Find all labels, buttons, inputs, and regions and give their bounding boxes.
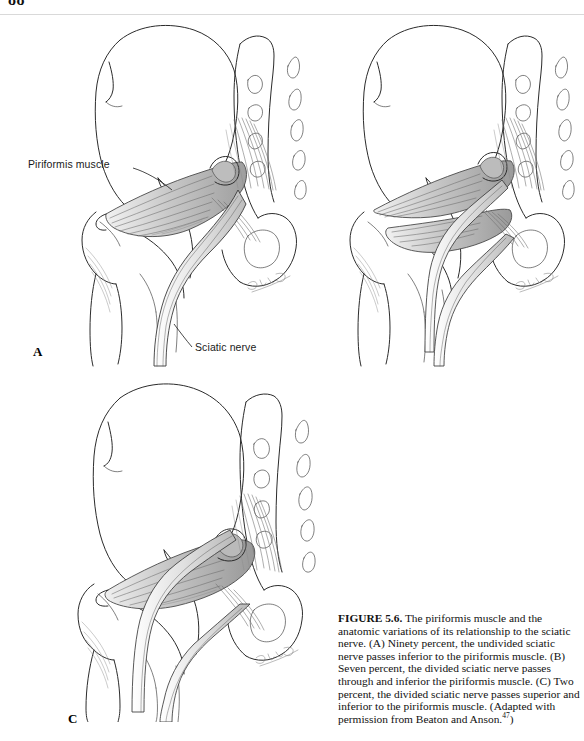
artist-signature <box>516 273 558 292</box>
caption-reference: 47 <box>502 711 510 720</box>
panel-letter-a: A <box>33 344 42 360</box>
figure-panel-b <box>330 22 582 367</box>
figure-panel-c <box>34 382 324 722</box>
figure-number: FIGURE 5.6. <box>338 612 402 624</box>
page-number: 88 <box>8 0 25 9</box>
panel-letter-c: C <box>68 711 77 727</box>
callout-piriformis-muscle: Piriformis muscle <box>28 158 110 170</box>
callout-sciatic-nerve: Sciatic nerve <box>195 341 256 353</box>
anatomy-illustration-b <box>330 22 582 367</box>
textbook-page: 88 <box>0 0 584 741</box>
header-rule <box>0 14 584 15</box>
caption-body: The piriformis muscle and the anatomic v… <box>338 612 580 725</box>
anatomy-illustration-a <box>62 22 314 367</box>
anatomy-illustration-c <box>34 382 324 722</box>
artist-signature <box>248 273 290 292</box>
caption-closing: ) <box>510 713 514 725</box>
figure-panel-a <box>62 22 314 367</box>
figure-caption: FIGURE 5.6. The piriformis muscle and th… <box>338 612 582 725</box>
